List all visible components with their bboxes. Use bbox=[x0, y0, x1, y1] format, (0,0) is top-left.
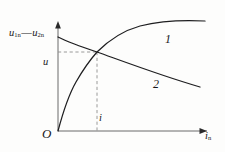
origin-label: O bbox=[42, 127, 51, 140]
x-axis bbox=[58, 128, 207, 134]
y-axis-label: u1n—u2n bbox=[9, 28, 44, 39]
x-axis-label: in bbox=[205, 131, 211, 142]
x-axis-label-subscript: n bbox=[208, 134, 211, 141]
voltage-current-characteristic-figure: u1n—u2n u O i in 1 2 bbox=[0, 0, 225, 152]
plot-canvas bbox=[0, 0, 225, 152]
y-axis-label-dash: — bbox=[21, 27, 33, 38]
y-axis-value-label-u: u bbox=[43, 57, 48, 68]
x-axis-value-label-i: i bbox=[99, 113, 102, 124]
curve-2-path bbox=[58, 37, 200, 87]
curve-2-label: 2 bbox=[153, 78, 159, 90]
dashed-guides bbox=[58, 52, 97, 131]
y-axis-arrow-icon bbox=[55, 21, 61, 29]
y-axis-label-lead-subscript: 1n bbox=[14, 31, 21, 38]
curve-1-label: 1 bbox=[165, 33, 171, 45]
curve-1-path bbox=[58, 21, 205, 131]
y-axis-label-trail-subscript: 2n bbox=[38, 31, 45, 38]
